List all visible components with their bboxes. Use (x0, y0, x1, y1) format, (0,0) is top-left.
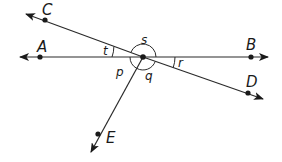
label-angle-s: s (141, 33, 147, 47)
label-a: A (36, 38, 47, 56)
label-angle-p: p (115, 65, 124, 79)
point-e (95, 131, 100, 136)
label-b: B (246, 36, 256, 54)
angle-p-arc (130, 57, 137, 68)
label-angle-r: r (178, 56, 184, 70)
label-angle-t: t (103, 44, 109, 58)
ray-d (143, 57, 263, 99)
angle-r-arc (173, 57, 175, 68)
vertex-point (140, 54, 146, 60)
label-d: D (246, 73, 258, 91)
angle-t-arc (112, 47, 114, 58)
label-c: C (42, 1, 53, 19)
point-d (245, 90, 250, 95)
point-b (248, 54, 253, 59)
label-angle-q: q (145, 69, 153, 83)
label-e: E (106, 129, 116, 147)
geometry-diagram: A B C D E t s r q p (0, 0, 282, 162)
